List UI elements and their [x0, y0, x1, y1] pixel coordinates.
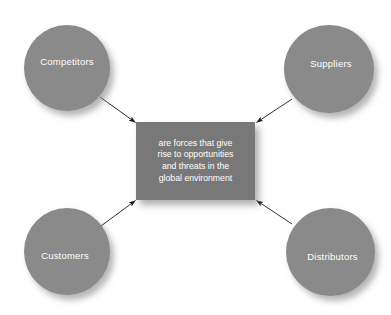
center-line-1: are forces that give	[158, 138, 234, 150]
node-competitors-label: Competitors	[40, 57, 93, 67]
center-line-3: and threats in the	[158, 161, 234, 173]
node-customers-label: Customers	[41, 251, 89, 261]
arrow-distributors-to-center	[257, 201, 293, 225]
arrow-suppliers-to-center	[257, 99, 293, 123]
center-statement-text: are forces that give rise to opportuniti…	[154, 138, 238, 184]
node-competitors[interactable]: Competitors	[24, 25, 110, 111]
arrow-customers-to-center	[101, 201, 136, 227]
node-distributors[interactable]: Distributors	[286, 208, 375, 296]
node-suppliers-label: Suppliers	[310, 59, 351, 69]
center-line-2: rise to opportunities	[158, 149, 234, 161]
diagram-canvas: Competitors Suppliers Customers Distribu…	[0, 0, 391, 315]
arrow-competitors-to-center	[100, 97, 136, 123]
center-line-4: global environment	[158, 173, 234, 185]
node-customers[interactable]: Customers	[24, 208, 110, 295]
center-statement-box[interactable]: are forces that give rise to opportuniti…	[136, 122, 255, 200]
node-suppliers[interactable]: Suppliers	[284, 25, 374, 113]
node-distributors-label: Distributors	[307, 252, 357, 262]
